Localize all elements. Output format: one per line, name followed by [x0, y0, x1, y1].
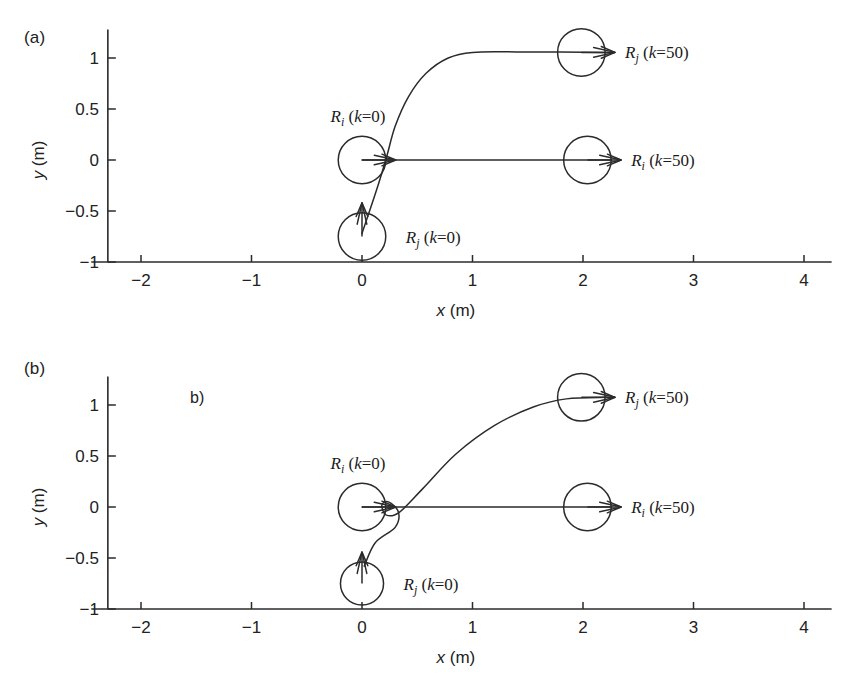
robot-label-Ri-end: Ri (k=50)	[630, 498, 694, 520]
y-tick-label: −0.5	[65, 202, 99, 221]
x-tick-label: −2	[131, 271, 150, 290]
robot-Rj-start: Rj (k=0)	[338, 203, 460, 261]
panel-b-plot: −2−101234x (m)10.50−0.5−1y (m)Ri (k=0)Rj…	[0, 347, 846, 693]
robot-Ri-start: Ri (k=0)	[330, 454, 396, 531]
axes	[91, 376, 831, 609]
y-axis-title: y (m)	[29, 488, 48, 528]
y-tick-label: 1	[89, 396, 98, 415]
robot-group: Ri (k=0)Rj (k=0)Rj (k=50)Ri (k=50)	[330, 374, 695, 605]
trajectory-group	[362, 397, 612, 566]
x-tick-label: −1	[242, 271, 261, 290]
x-tick-group: −2−101234	[131, 255, 808, 290]
y-axis-title: y (m)	[29, 141, 48, 181]
robot-label-Ri-start: Ri (k=0)	[330, 454, 386, 476]
x-tick-label: 0	[357, 618, 366, 637]
robot-label-Ri-end: Ri (k=50)	[630, 151, 694, 173]
robot-Rj-start: Rj (k=0)	[340, 552, 458, 605]
x-tick-label: −1	[242, 618, 261, 637]
y-tick-label: 1	[89, 49, 98, 68]
robot-label-Rj-start: Rj (k=0)	[405, 228, 461, 250]
y-tick-label: −1	[79, 600, 98, 619]
axes	[91, 29, 831, 262]
x-tick-label: 4	[799, 618, 808, 637]
x-tick-label: 0	[357, 271, 366, 290]
x-tick-label: −2	[131, 618, 150, 637]
y-tick-label: 0	[89, 151, 98, 170]
panel-a-plot: −2−101234x (m)10.50−0.5−1y (m)Ri (k=0)Rj…	[0, 0, 846, 346]
robot-label-Ri-start: Ri (k=0)	[330, 107, 386, 129]
robot-label-Rj-end: Rj (k=50)	[624, 43, 688, 65]
y-tick-label: −1	[79, 253, 98, 272]
robot-label-Rj-end: Rj (k=50)	[624, 388, 688, 410]
x-tick-label: 2	[578, 618, 587, 637]
x-axis-title: x (m)	[436, 648, 476, 667]
y-tick-label: 0.5	[75, 100, 99, 119]
x-tick-label: 2	[578, 271, 587, 290]
trajectory-group	[362, 52, 612, 234]
robot-group: Ri (k=0)Rj (k=0)Rj (k=50)Ri (k=50)	[330, 29, 695, 261]
figure-root: (a) −2−101234x (m)10.50−0.5−1y (m)Ri (k=…	[0, 0, 846, 693]
y-tick-label: 0	[89, 498, 98, 517]
x-tick-label: 4	[799, 271, 808, 290]
panel-a: (a) −2−101234x (m)10.50−0.5−1y (m)Ri (k=…	[0, 0, 846, 346]
x-tick-label: 1	[468, 618, 477, 637]
y-tick-label: 0.5	[75, 447, 99, 466]
robot-label-Rj-start: Rj (k=0)	[403, 575, 459, 597]
panel-b: (b) b) −2−101234x (m)10.50−0.5−1y (m)Ri …	[0, 347, 846, 693]
x-tick-group: −2−101234	[131, 602, 808, 637]
trajectory-Rj-avoidance-path	[364, 397, 607, 566]
y-tick-label: −0.5	[65, 549, 99, 568]
x-tick-label: 3	[689, 271, 698, 290]
x-tick-label: 3	[689, 618, 698, 637]
x-axis-title: x (m)	[436, 301, 476, 320]
x-tick-label: 1	[468, 271, 477, 290]
robot-Ri-start: Ri (k=0)	[330, 107, 396, 184]
